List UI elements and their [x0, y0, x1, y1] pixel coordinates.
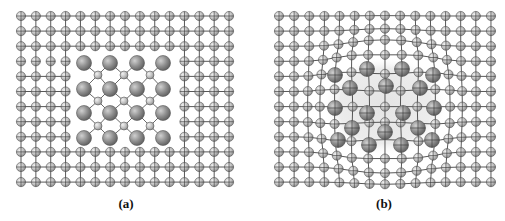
host-atom: [365, 24, 374, 33]
host-atom: [76, 27, 85, 36]
precipitate-small-atom: [94, 122, 102, 130]
panel-b-coherent-lattice: [274, 11, 495, 189]
host-atom: [350, 25, 359, 34]
host-atom: [365, 86, 374, 95]
host-atom: [195, 11, 204, 20]
host-atom: [411, 11, 420, 20]
host-atom: [16, 102, 25, 111]
host-atom: [210, 117, 219, 126]
host-atom: [31, 117, 40, 126]
host-atom: [471, 87, 480, 96]
host-atom: [61, 102, 70, 111]
host-atom: [31, 11, 40, 20]
host-atom: [330, 119, 339, 128]
host-atom: [426, 26, 435, 35]
host-atom: [106, 42, 115, 51]
host-atom: [16, 11, 25, 20]
host-atom: [61, 162, 70, 171]
host-atom: [456, 56, 465, 65]
host-atom: [76, 162, 85, 171]
host-atom: [289, 102, 298, 111]
host-atom: [180, 162, 189, 171]
host-atom: [426, 11, 435, 20]
precipitate-large-atom: [77, 56, 92, 71]
precipitate-large-atom: [77, 106, 92, 121]
host-atom: [330, 85, 339, 94]
host-atom: [332, 53, 341, 62]
precipitate-large-atom: [394, 138, 409, 153]
precipitate-large-atom: [360, 62, 375, 77]
host-atom: [224, 162, 233, 171]
host-atom: [290, 42, 299, 51]
host-atom: [456, 178, 465, 187]
host-atom: [210, 162, 219, 171]
host-atom: [456, 11, 465, 20]
host-atom: [31, 57, 40, 66]
precipitate-large-atom: [411, 121, 426, 136]
host-atom: [486, 57, 495, 66]
lattice-figure: [0, 0, 505, 221]
precipitate-large-atom: [103, 82, 118, 97]
host-atom: [46, 57, 55, 66]
host-atom: [61, 27, 70, 36]
host-atom: [106, 178, 115, 187]
host-atom: [31, 42, 40, 51]
host-atom: [135, 27, 144, 36]
host-atom: [180, 72, 189, 81]
host-atom: [380, 102, 389, 111]
host-atom: [380, 168, 389, 177]
host-atom: [427, 40, 436, 49]
host-atom: [31, 72, 40, 81]
host-atom: [61, 11, 70, 20]
host-atom: [471, 132, 480, 141]
host-atom: [289, 87, 298, 96]
host-atom: [486, 147, 495, 156]
host-atom: [135, 162, 144, 171]
host-atom: [16, 147, 25, 156]
precipitate-large-atom: [345, 121, 360, 136]
precipitate-large-atom: [77, 131, 92, 146]
precipitate-large-atom: [396, 106, 411, 121]
host-atom: [91, 11, 100, 20]
host-atom: [210, 42, 219, 51]
host-atom: [180, 87, 189, 96]
host-atom: [347, 137, 356, 146]
host-atom: [274, 147, 283, 156]
host-atom: [91, 42, 100, 51]
precipitate-large-atom: [156, 106, 171, 121]
host-atom: [414, 68, 423, 77]
host-atom: [274, 132, 283, 141]
precipitate-large-atom: [426, 68, 441, 83]
host-atom: [106, 27, 115, 36]
host-atom: [334, 40, 343, 49]
host-atom: [120, 162, 129, 171]
host-atom: [224, 72, 233, 81]
host-atom: [303, 102, 312, 111]
precipitate-small-atom: [146, 97, 154, 105]
host-atom: [16, 57, 25, 66]
host-atom: [304, 148, 313, 157]
host-atom: [305, 11, 314, 20]
host-atom: [486, 178, 495, 187]
host-atom: [165, 178, 174, 187]
host-atom: [471, 117, 480, 126]
host-atom: [16, 27, 25, 36]
host-atom: [180, 11, 189, 20]
host-atom: [274, 72, 283, 81]
host-atom: [426, 178, 435, 187]
host-atom: [165, 27, 174, 36]
host-atom: [150, 27, 159, 36]
host-atom: [442, 149, 451, 158]
host-atom: [210, 147, 219, 156]
host-atom: [289, 72, 298, 81]
host-atom: [135, 178, 144, 187]
precipitate-large-atom: [156, 82, 171, 97]
host-atom: [195, 147, 204, 156]
host-atom: [91, 147, 100, 156]
precipitate-large-atom: [343, 81, 358, 96]
precipitate-large-atom: [425, 133, 440, 148]
host-atom: [31, 178, 40, 187]
host-atom: [364, 154, 373, 163]
host-atom: [318, 55, 327, 64]
host-atom: [290, 26, 299, 35]
